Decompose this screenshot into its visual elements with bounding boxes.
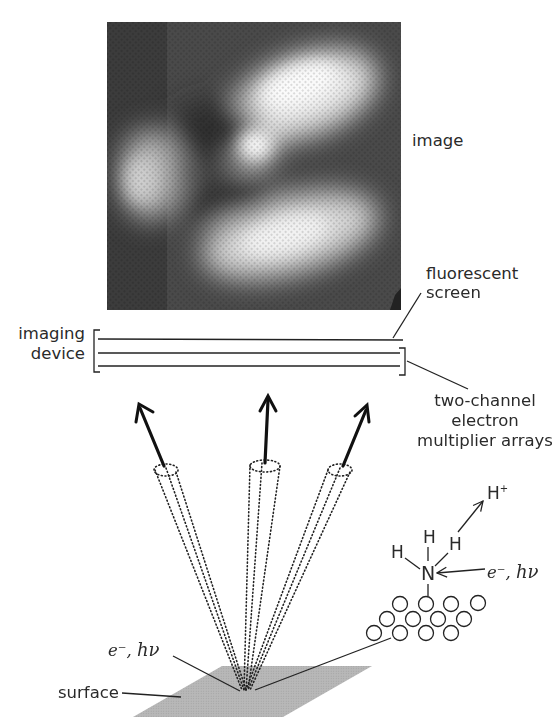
- trajectory-arrows: [136, 396, 369, 466]
- fluorescent-screen-label-1: fluorescent: [426, 264, 518, 283]
- imaging-device-label-1: imaging: [0, 324, 85, 343]
- multiplier-label-3: multiplier arrays: [410, 431, 559, 450]
- h-plus-ion: H+: [487, 480, 508, 502]
- multiplier-label-1: two-channel: [420, 391, 550, 410]
- arrow-up-left: [140, 408, 164, 466]
- emission-image: [107, 22, 401, 310]
- figure-canvas: [0, 0, 559, 727]
- h-atom-right: H: [449, 535, 462, 553]
- h-atom-top: H: [423, 528, 436, 546]
- imaging-device-label-2: device: [0, 344, 85, 363]
- surface-label: surface: [58, 683, 119, 702]
- fluorescent-screen-line: [98, 339, 403, 340]
- desorption-arrow: [458, 501, 483, 532]
- multiplier-label-2: electron: [420, 411, 550, 430]
- molecule-bonds: [405, 501, 485, 596]
- molecule-excitation-label: e⁻, hν: [487, 562, 539, 582]
- image-label: image: [412, 131, 463, 150]
- h-atom-left: H: [391, 543, 404, 561]
- surface-excitation-label: e⁻, hν: [108, 640, 160, 660]
- fluorescent-screen-label-2: screen: [426, 283, 481, 302]
- arrow-up: [265, 400, 268, 463]
- substrate-atoms: [367, 596, 486, 641]
- n-atom: N: [421, 564, 435, 582]
- arrow-up-right: [343, 410, 366, 466]
- excitation-arrow: [437, 569, 485, 573]
- emission-cones: [154, 460, 352, 690]
- multiplier-leader: [407, 361, 468, 389]
- right-bracket: [399, 348, 405, 375]
